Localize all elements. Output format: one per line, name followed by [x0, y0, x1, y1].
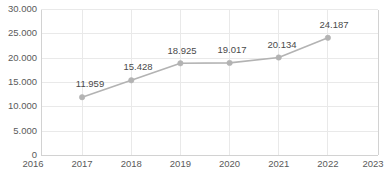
data-label-2022: 24.187	[319, 19, 348, 30]
y-axis-tick-labels: 30.000 25.000 20.000 15.000 10.000 5.000…	[8, 3, 37, 160]
data-point-2018	[129, 78, 134, 83]
x-tick-label-2018: 2018	[121, 158, 142, 169]
x-tick-label-2016: 2016	[22, 158, 43, 169]
x-axis-tick-labels: 2016 2017 2018 2019 2020 2021 2022 2023	[22, 158, 383, 169]
x-tick-label-2019: 2019	[170, 158, 191, 169]
data-point-2020	[227, 60, 232, 65]
data-label-2018: 15.428	[123, 61, 152, 72]
data-label-2020: 19.017	[217, 44, 246, 55]
x-tick-label-2020: 2020	[219, 158, 240, 169]
x-tick-label-2022: 2022	[317, 158, 338, 169]
y-tick-label-30000: 30.000	[8, 3, 37, 14]
data-label-2019: 18.925	[167, 45, 196, 56]
data-point-2017	[79, 95, 84, 100]
data-point-2022	[325, 35, 330, 40]
data-point-2019	[178, 61, 183, 66]
chart-canvas: 30.000 25.000 20.000 15.000 10.000 5.000…	[0, 0, 391, 173]
x-tick-label-2021: 2021	[268, 158, 289, 169]
y-tick-label-20000: 20.000	[8, 52, 37, 63]
data-label-2021: 20.134	[267, 39, 296, 50]
data-point-labels: 11.959 15.428 18.925 19.017 20.134 24.18…	[76, 19, 349, 89]
data-point-2021	[276, 55, 281, 60]
y-tick-label-10000: 10.000	[8, 100, 37, 111]
data-label-2017: 11.959	[76, 78, 104, 89]
y-tick-label-25000: 25.000	[8, 27, 37, 38]
line-chart: 30.000 25.000 20.000 15.000 10.000 5.000…	[0, 0, 391, 173]
x-tick-label-2023: 2023	[362, 158, 383, 169]
y-tick-label-5000: 5.000	[13, 125, 37, 136]
y-tick-label-15000: 15.000	[8, 76, 37, 87]
x-tick-label-2017: 2017	[72, 158, 93, 169]
